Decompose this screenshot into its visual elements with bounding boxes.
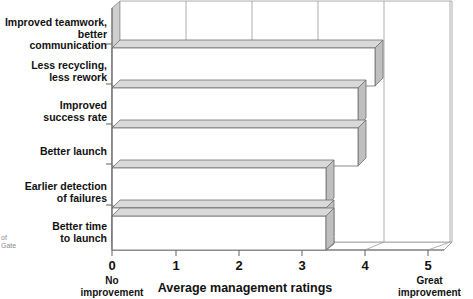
- bar-improved-teamwork: [112, 40, 383, 86]
- x-axis-ticks: [112, 250, 428, 256]
- bar-less-recycling: [112, 80, 366, 126]
- x-tick-label-5: 5: [414, 258, 442, 273]
- category-label-less-recycling: Less recycling, less rework: [0, 60, 107, 83]
- category-label-improved-teamwork: Improved teamwork, better communication: [0, 17, 107, 52]
- x-tick-label-0: 0: [98, 258, 126, 273]
- x-tick-label-4: 4: [351, 258, 379, 273]
- chart-container: Improved teamwork, better communication …: [0, 0, 473, 299]
- bar-better-launch: [112, 160, 334, 206]
- bar-improved-success-rate: [112, 120, 366, 166]
- bar-better-time-to-launch: [112, 208, 334, 250]
- x-tick-label-1: 1: [162, 258, 190, 273]
- category-label-earlier-detection: Earlier detection of failures: [0, 181, 107, 204]
- x-tick-label-2: 2: [225, 258, 253, 273]
- x-axis-title: Average management ratings: [155, 281, 335, 295]
- corner-note: of Gate: [1, 234, 25, 250]
- category-label-better-launch: Better launch: [0, 146, 107, 158]
- category-label-improved-success-rate: Improved success rate: [0, 100, 107, 123]
- x-tick-label-3: 3: [288, 258, 316, 273]
- axis-end-label-no-improvement: No improvement: [69, 275, 155, 298]
- axis-end-label-great-improvement: Great improvement: [386, 275, 473, 298]
